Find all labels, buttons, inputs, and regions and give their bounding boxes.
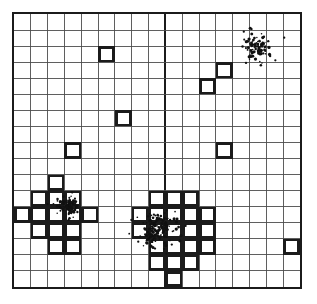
plot-area: [12, 12, 302, 289]
scatter-grid-figure: [0, 0, 317, 304]
data-points-layer: [14, 14, 300, 287]
